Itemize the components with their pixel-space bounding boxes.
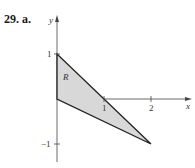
y-axis-arrow-icon — [55, 15, 59, 22]
region-label: R — [62, 72, 69, 82]
region-diagram: y x 1 2 1 −1 R — [0, 0, 195, 168]
x-axis-label: x — [185, 101, 190, 111]
x-tick-1: 1 — [102, 103, 107, 113]
y-tick-1: 1 — [47, 49, 52, 59]
x-tick-2: 2 — [149, 103, 154, 113]
y-tick-neg1: −1 — [41, 139, 51, 149]
y-axis-label: y — [48, 15, 53, 25]
